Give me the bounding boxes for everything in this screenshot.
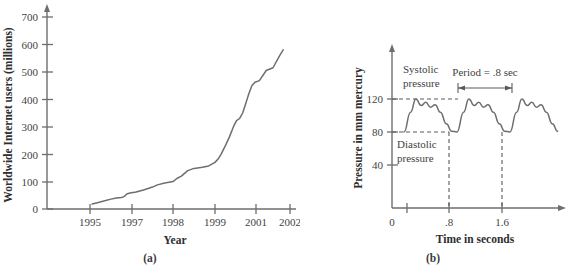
y-tick-label: 400 bbox=[22, 94, 39, 106]
y-tick-label: 300 bbox=[22, 121, 39, 133]
y-tick-label: 600 bbox=[22, 39, 39, 51]
x-tick-label: 0 bbox=[389, 216, 395, 228]
x-tick-label: 2001 bbox=[245, 216, 267, 228]
y-axis-title-a: Worldwide Internet users (millions) bbox=[2, 27, 15, 203]
y-tick-label: 200 bbox=[22, 149, 39, 161]
chart-panel-a: 700 600 500 400 300 200 100 0 Worldwide … bbox=[0, 0, 300, 271]
y-tick-label: 700 bbox=[22, 11, 39, 23]
y-tick-labels-b: 120 80 40 bbox=[367, 93, 384, 171]
x-axis-a bbox=[47, 204, 296, 214]
x-tick-labels-b: 0 .8 1.6 bbox=[389, 216, 509, 228]
y-axis-b bbox=[387, 44, 398, 208]
y-axis-a bbox=[42, 4, 53, 209]
y-tick-label: 100 bbox=[22, 176, 39, 188]
internet-users-chart: 700 600 500 400 300 200 100 0 Worldwide … bbox=[0, 0, 300, 271]
y-tick-label: 120 bbox=[367, 93, 384, 105]
diastolic-label-line2: pressure bbox=[397, 152, 434, 164]
x-axis-arrowhead bbox=[558, 205, 566, 211]
x-tick-label: 1995 bbox=[79, 216, 102, 228]
y-tick-label: 500 bbox=[22, 66, 39, 78]
panel-b-caption: (b) bbox=[426, 252, 440, 264]
x-tick-label: 1999 bbox=[204, 216, 227, 228]
x-axis-title-b: Time in seconds bbox=[436, 233, 515, 245]
panel-a-caption: (a) bbox=[143, 252, 156, 264]
y-axis-arrowhead bbox=[389, 44, 395, 52]
chart-panel-b: 120 80 40 Pressure in mm mercury 0 .8 1.… bbox=[300, 0, 566, 271]
y-tick-label: 0 bbox=[33, 203, 39, 215]
blood-pressure-chart: 120 80 40 Pressure in mm mercury 0 .8 1.… bbox=[300, 0, 566, 271]
diastolic-label-line1: Diastolic bbox=[397, 138, 437, 150]
blood-pressure-waveform bbox=[404, 99, 558, 132]
figure-container: 700 600 500 400 300 200 100 0 Worldwide … bbox=[0, 0, 566, 271]
systolic-label-line1: Systolic bbox=[403, 63, 439, 75]
internet-users-line bbox=[92, 50, 283, 204]
period-double-arrow bbox=[458, 83, 512, 93]
y-axis-arrowhead bbox=[44, 4, 50, 12]
y-tick-label: 80 bbox=[372, 126, 384, 138]
x-tick-label: 1.6 bbox=[495, 216, 509, 228]
y-axis-title-b: Pressure in mm mercury bbox=[352, 67, 365, 189]
y-tick-label: 40 bbox=[372, 159, 384, 171]
systolic-label-line2: pressure bbox=[403, 77, 440, 89]
x-tick-label: 1997 bbox=[121, 216, 144, 228]
x-tick-label: 2002 bbox=[279, 216, 300, 228]
x-axis-title-a: Year bbox=[164, 234, 187, 246]
y-tick-labels-a: 700 600 500 400 300 200 100 0 bbox=[22, 11, 39, 215]
x-axis-b bbox=[392, 203, 566, 213]
period-label: Period = .8 sec bbox=[452, 66, 518, 78]
x-tick-label: .8 bbox=[445, 216, 454, 228]
x-tick-label: 1998 bbox=[162, 216, 185, 228]
x-tick-labels-a: 1995 1997 1998 1999 2001 2002 bbox=[79, 216, 300, 228]
